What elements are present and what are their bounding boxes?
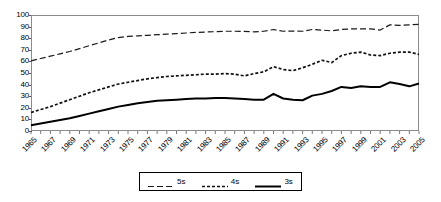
series-line-4s bbox=[31, 52, 419, 112]
x-tick-label: 1985 bbox=[210, 136, 233, 159]
x-tick-label: 1995 bbox=[307, 136, 330, 159]
legend-label: 5s bbox=[177, 178, 185, 186]
x-tick-label: 1973 bbox=[94, 136, 117, 159]
x-tick-label: 1993 bbox=[288, 136, 311, 159]
x-tick-label: 1999 bbox=[346, 136, 369, 159]
x-tick-label: 1989 bbox=[249, 136, 272, 159]
x-tick-label: 1979 bbox=[152, 136, 175, 159]
legend-swatch-4s bbox=[202, 177, 228, 186]
legend-item-3s[interactable]: 3s bbox=[255, 177, 292, 186]
x-tick-label: 2005 bbox=[404, 136, 427, 159]
legend-item-5s[interactable]: 5s bbox=[148, 177, 185, 186]
x-tick-label: 1965 bbox=[16, 136, 39, 159]
x-tick-label: 1969 bbox=[55, 136, 78, 159]
x-tick-label: 1977 bbox=[132, 136, 155, 159]
legend-swatch-5s bbox=[148, 177, 174, 186]
x-tick-label: 1991 bbox=[268, 136, 291, 159]
x-tick-label: 2003 bbox=[385, 136, 408, 159]
chart-legend: 5s4s3s bbox=[139, 172, 302, 191]
line-chart: 1009080706050403020100 19651967196919711… bbox=[0, 0, 441, 202]
x-tick-label: 1975 bbox=[113, 136, 136, 159]
x-tick-label: 1983 bbox=[191, 136, 214, 159]
series-line-5s bbox=[31, 24, 419, 61]
x-tick-label: 2001 bbox=[365, 136, 388, 159]
x-tick-label: 1997 bbox=[326, 136, 349, 159]
legend-label: 3s bbox=[284, 178, 292, 186]
x-tick-label: 1987 bbox=[229, 136, 252, 159]
legend-swatch-3s bbox=[255, 177, 281, 186]
legend-item-4s[interactable]: 4s bbox=[202, 177, 239, 186]
x-tick-label: 1967 bbox=[35, 136, 58, 159]
legend-label: 4s bbox=[231, 178, 239, 186]
x-tick-label: 1981 bbox=[171, 136, 194, 159]
series-line-3s bbox=[31, 82, 419, 125]
x-tick-label: 1971 bbox=[74, 136, 97, 159]
